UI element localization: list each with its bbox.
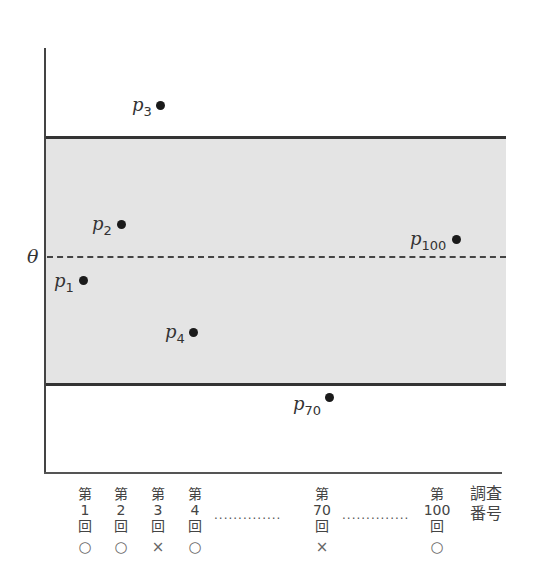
ellipsis-dots-right: ·············· (342, 512, 418, 526)
survey-number: 2 (101, 502, 141, 518)
survey-suffix: 回 (417, 518, 457, 534)
point-label-p100: p100 (410, 230, 446, 252)
data-point-p3 (156, 101, 165, 110)
survey-prefix: 第 (138, 486, 178, 502)
survey-column-2: 第 2 回 ○ (101, 486, 141, 555)
contains-theta-mark: ○ (101, 539, 141, 555)
data-point-p70 (325, 393, 334, 402)
survey-suffix: 回 (175, 518, 215, 534)
survey-column-1: 第 1 回 ○ (65, 486, 105, 555)
x-axis-label: 調査 番号 (466, 484, 506, 524)
survey-suffix: 回 (65, 518, 105, 534)
contains-theta-mark: ○ (175, 539, 215, 555)
survey-number: 70 (302, 502, 342, 518)
survey-suffix: 回 (138, 518, 178, 534)
ellipsis-dots-left: ·············· (214, 512, 306, 526)
x-axis-label-line2: 番号 (466, 504, 506, 524)
y-axis (44, 48, 46, 474)
survey-column-3: 第 3 回 × (138, 486, 178, 555)
data-point-p2 (117, 220, 126, 229)
survey-number: 100 (417, 502, 457, 518)
confidence-band (45, 137, 506, 384)
survey-prefix: 第 (302, 486, 342, 502)
survey-number: 3 (138, 502, 178, 518)
point-label-p3: p3 (132, 96, 152, 118)
band-upper-bound-line (45, 136, 506, 139)
survey-prefix: 第 (65, 486, 105, 502)
survey-suffix: 回 (101, 518, 141, 534)
theta-reference-line (47, 256, 506, 258)
survey-column-100: 第 100 回 ○ (417, 486, 457, 555)
point-label-p1: p1 (54, 272, 74, 294)
survey-number: 4 (175, 502, 215, 518)
contains-theta-mark: × (302, 539, 342, 555)
x-axis-label-line1: 調査 (466, 484, 506, 504)
survey-prefix: 第 (175, 486, 215, 502)
data-point-p100 (452, 235, 461, 244)
survey-prefix: 第 (417, 486, 457, 502)
contains-theta-mark: ○ (417, 539, 457, 555)
survey-column-70: 第 70 回 × (302, 486, 342, 555)
contains-theta-mark: × (138, 539, 178, 555)
band-lower-bound-line (45, 383, 506, 386)
point-label-p70: p70 (293, 395, 321, 417)
survey-column-4: 第 4 回 ○ (175, 486, 215, 555)
point-label-p4: p4 (165, 323, 185, 345)
survey-prefix: 第 (101, 486, 141, 502)
data-point-p1 (79, 276, 88, 285)
survey-number: 1 (65, 502, 105, 518)
contains-theta-mark: ○ (65, 539, 105, 555)
x-axis (44, 472, 502, 474)
point-label-p2: p2 (92, 215, 112, 237)
survey-suffix: 回 (302, 518, 342, 534)
theta-label: θ (27, 245, 38, 267)
data-point-p4 (189, 328, 198, 337)
